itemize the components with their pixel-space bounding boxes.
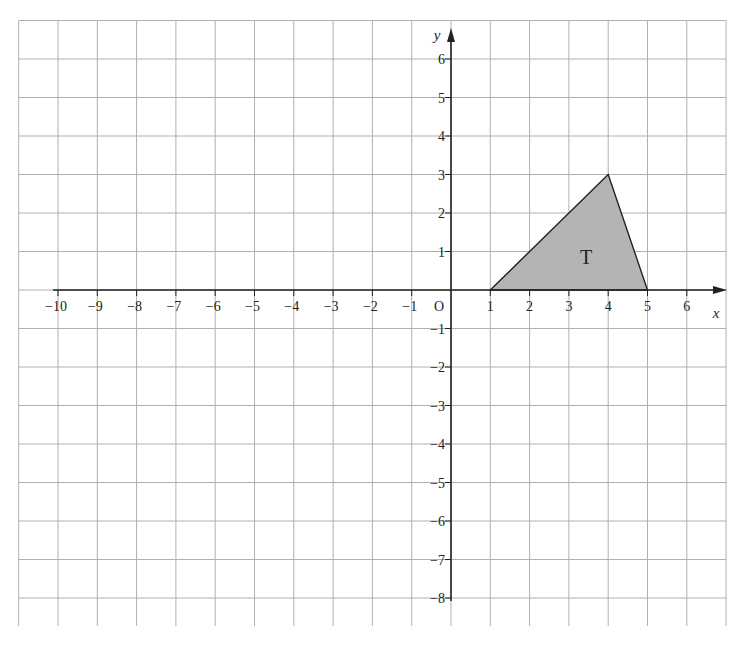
y-tick-label: −1 — [430, 322, 445, 337]
x-axis-label: x — [712, 305, 720, 321]
x-tick-label: −9 — [88, 299, 103, 314]
coordinate-grid: T −10−9−8−7−6−5−4−3−2−1123456654321−1−2−… — [0, 0, 740, 648]
x-tick-label: −6 — [206, 299, 221, 314]
y-tick-label: 2 — [438, 206, 445, 221]
y-tick-label: 6 — [438, 52, 445, 67]
axes — [53, 28, 727, 601]
axis-labels: −10−9−8−7−6−5−4−3−2−1123456654321−1−2−3−… — [45, 27, 720, 606]
x-tick-label: −1 — [402, 299, 417, 314]
y-tick-label: 3 — [438, 168, 445, 183]
y-tick-label: −3 — [430, 399, 445, 414]
x-tick-label: −2 — [363, 299, 378, 314]
origin-label: O — [434, 299, 444, 314]
shape-label: T — [580, 246, 592, 268]
y-tick-label: 5 — [438, 91, 445, 106]
y-tick-label: −7 — [430, 553, 445, 568]
y-tick-label: −8 — [430, 591, 445, 606]
x-tick-label: −8 — [127, 299, 142, 314]
x-tick-label: 4 — [605, 299, 612, 314]
x-tick-label: 5 — [644, 299, 651, 314]
x-tick-label: 3 — [565, 299, 572, 314]
worksheet-figure: T −10−9−8−7−6−5−4−3−2−1123456654321−1−2−… — [0, 0, 740, 648]
y-tick-label: −6 — [430, 514, 445, 529]
x-axis-arrow-icon — [713, 286, 727, 294]
x-tick-label: −3 — [324, 299, 339, 314]
grid-lines — [19, 21, 726, 627]
y-tick-label: −4 — [430, 437, 445, 452]
x-tick-label: −10 — [45, 299, 67, 314]
y-tick-label: −5 — [430, 476, 445, 491]
y-axis-arrow-icon — [447, 28, 455, 42]
y-tick-label: 1 — [438, 245, 445, 260]
x-tick-label: 2 — [526, 299, 533, 314]
x-tick-label: −5 — [245, 299, 260, 314]
y-tick-label: 4 — [438, 129, 445, 144]
x-tick-label: −7 — [166, 299, 181, 314]
y-tick-label: −2 — [430, 360, 445, 375]
y-axis-label: y — [432, 27, 441, 43]
x-tick-label: −4 — [284, 299, 299, 314]
x-tick-label: 1 — [487, 299, 494, 314]
x-tick-label: 6 — [683, 299, 690, 314]
